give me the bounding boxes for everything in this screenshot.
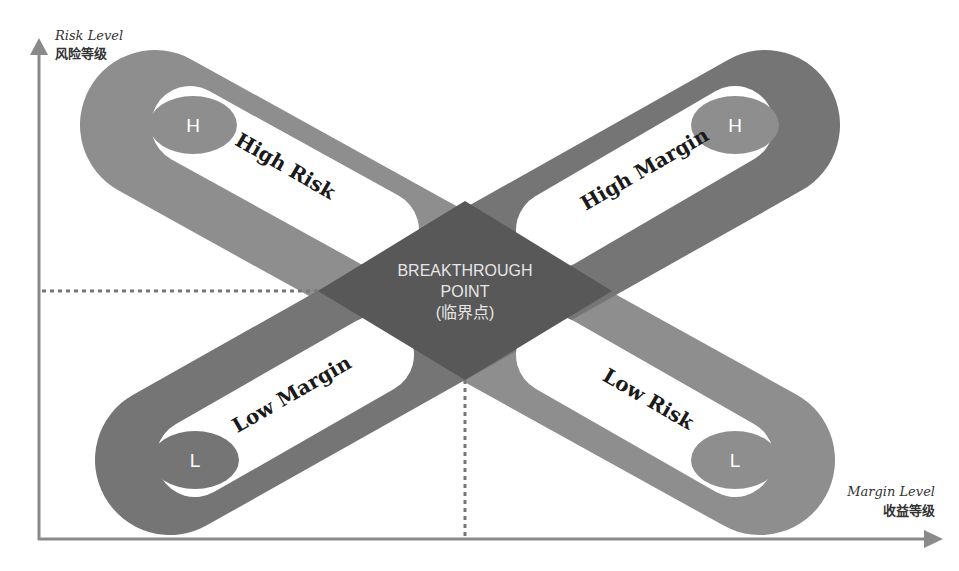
center-line-2: POINT — [441, 283, 490, 300]
badge-low-margin: L — [151, 431, 239, 489]
center-line-1: BREAKTHROUGH — [397, 262, 532, 279]
x-axis-arrow-icon — [924, 530, 943, 548]
y-axis-label-zh: 风险等级 — [55, 46, 108, 61]
badge-high-risk: H — [149, 96, 237, 154]
svg-text:L: L — [730, 450, 741, 471]
svg-text:L: L — [190, 450, 201, 471]
badge-low-risk: L — [691, 431, 779, 489]
svg-text:H: H — [186, 115, 200, 136]
risk-margin-diagram: H H L L High Risk High Margin Low Margin… — [0, 0, 959, 571]
svg-text:H: H — [728, 115, 742, 136]
y-axis-arrow-icon — [30, 38, 48, 55]
x-axis-label-en: Margin Level — [846, 484, 935, 499]
center-line-3: (临界点) — [436, 304, 495, 321]
x-axis-label-zh: 收益等级 — [883, 503, 936, 518]
y-axis-label-en: Risk Level — [54, 28, 123, 43]
